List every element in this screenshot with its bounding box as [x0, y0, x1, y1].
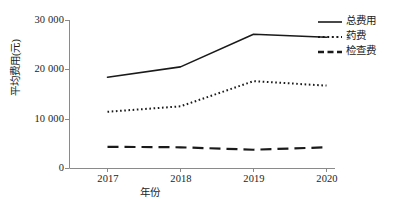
y-tick-label-10000: 10 000	[14, 113, 64, 124]
series-line-exam-cost	[108, 147, 327, 150]
legend-swatch-dashed-icon	[318, 47, 342, 57]
legend-item-drug-cost[interactable]: 药费	[318, 29, 398, 44]
series-line-drug-cost	[108, 81, 327, 112]
legend-item-total-cost[interactable]: 总费用	[318, 14, 398, 29]
x-axis-title: 年份	[0, 184, 300, 199]
x-tick-label-2017: 2017	[83, 173, 133, 184]
y-tick-label-20000: 20 000	[14, 63, 64, 74]
legend-label-exam-cost: 检查费	[346, 46, 376, 57]
line-chart: 30 000 20 000 10 000 0 2017 2018 2019 20…	[0, 0, 399, 202]
y-axis-title: 平均费用(元)	[7, 23, 22, 113]
y-tick-label-30000: 30 000	[14, 14, 64, 25]
x-tick-label-2020: 2020	[302, 173, 352, 184]
series-line-total-cost	[108, 34, 327, 77]
y-tick-label-0: 0	[14, 162, 64, 173]
legend-swatch-solid-icon	[318, 17, 342, 27]
legend-swatch-dotted-icon	[318, 32, 342, 42]
legend-item-exam-cost[interactable]: 检查费	[318, 44, 398, 59]
chart-legend: 总费用 药费 检查费	[318, 14, 398, 59]
x-tick-label-2019: 2019	[229, 173, 279, 184]
legend-label-drug-cost: 药费	[346, 31, 366, 42]
legend-label-total-cost: 总费用	[346, 16, 376, 27]
data-series-group	[108, 34, 327, 149]
x-tick-label-2018: 2018	[156, 173, 206, 184]
